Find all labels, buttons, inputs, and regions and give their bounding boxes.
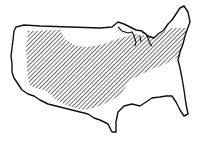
us-map (0, 0, 198, 143)
hatched-region (26, 28, 186, 110)
